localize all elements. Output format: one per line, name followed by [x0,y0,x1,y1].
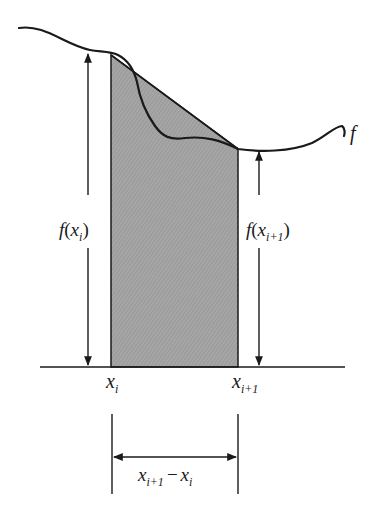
trapezoid-rule-diagram: f f(xi) f(xi+1) xi xi+1 xi+1−xi [0,0,376,524]
x-left-label: xi [105,370,118,396]
curve-label-f: f [350,122,358,145]
right-height-label: f(xi+1) [246,219,290,244]
left-height-label: f(xi) [59,219,89,244]
width-label: xi+1−xi [137,464,192,489]
x-right-label: xi+1 [231,370,258,396]
